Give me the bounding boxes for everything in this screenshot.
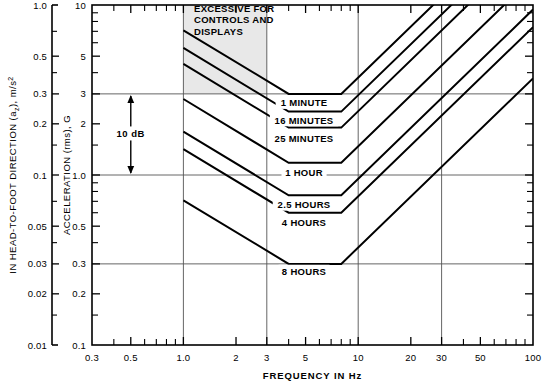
secondary-y-tick-label: 0.02: [28, 288, 47, 299]
excessive-zone-label-line: EXCESSIVE FOR: [194, 3, 274, 14]
ten-db-label: 10 dB: [117, 128, 145, 139]
y-tick-label: 0.3: [72, 258, 86, 269]
secondary-y-tick-label: 0.2: [33, 118, 47, 129]
excessive-zone-label-line: CONTROLS AND: [194, 14, 274, 25]
x-tick-label: 1.0: [176, 352, 190, 363]
y-axis-title: ACCELERATION (rms), G: [61, 115, 72, 235]
x-tick-label: 30: [436, 352, 447, 363]
secondary-y-tick-label: 0.05: [28, 221, 47, 232]
y-tick-label: 0.5: [72, 221, 86, 232]
y-tick-label: 5: [81, 51, 86, 62]
curve-label: 2.5 HOURS: [278, 199, 331, 210]
chart-canvas: 0.30.51.023510203050100 105321.00.50.30.…: [0, 0, 544, 384]
x-tick-label: 0.5: [124, 352, 138, 363]
curve-label: 25 MINUTES: [275, 133, 334, 144]
y-tick-label: 10: [75, 0, 86, 11]
y-tick-label: 0.1: [72, 340, 86, 351]
curve-label: 1 MINUTE: [281, 97, 328, 108]
x-tick-label: 0.3: [85, 352, 99, 363]
x-tick-label: 100: [525, 352, 541, 363]
secondary-y-axis-title: IN HEAD-TO-FOOT DIRECTION (az), m/s2: [7, 76, 21, 273]
y-tick-label: 1.0: [72, 170, 86, 181]
y-tick-label: 3: [81, 88, 86, 99]
curve-label: 4 HOURS: [282, 217, 326, 228]
secondary-y-tick-label: 0.01: [28, 340, 47, 351]
x-tick-label: 50: [475, 352, 486, 363]
y-tick-label: 0.2: [72, 288, 86, 299]
x-tick-label: 5: [303, 352, 308, 363]
x-axis-title: FREQUENCY IN Hz: [263, 370, 362, 381]
secondary-y-tick-label: 0.1: [33, 170, 47, 181]
vibration-exposure-chart: 0.30.51.023510203050100 105321.00.50.30.…: [0, 0, 544, 384]
curve-label: 16 MINUTES: [275, 115, 334, 126]
y-tick-label: 2: [81, 118, 86, 129]
secondary-y-tick-label: 0.3: [33, 88, 47, 99]
x-tick-label: 20: [405, 352, 416, 363]
x-tick-label: 2: [233, 352, 238, 363]
curve-label: 8 HOURS: [282, 266, 326, 277]
excessive-zone-label-line: DISPLAYS: [194, 26, 243, 37]
secondary-y-tick-label: 1.0: [33, 0, 47, 11]
secondary-y-axis-title-main: IN HEAD-TO-FOOT DIRECTION (a: [7, 111, 18, 274]
secondary-y-tick-label: 0.5: [33, 51, 47, 62]
secondary-y-tick-label: 0.03: [28, 258, 47, 269]
x-tick-label: 10: [353, 352, 364, 363]
secondary-y-axis-title-superscript: 2: [7, 76, 14, 80]
curve-label: 1 HOUR: [285, 167, 323, 178]
x-tick-label: 3: [264, 352, 269, 363]
secondary-y-axis-title-tail: ), m/s: [7, 81, 18, 107]
